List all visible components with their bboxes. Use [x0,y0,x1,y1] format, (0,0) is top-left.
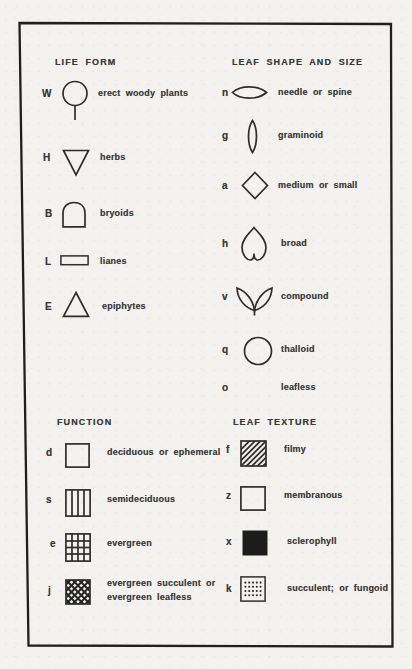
symbol-label: semideciduous [107,494,175,505]
inverted-heart-icon [240,226,268,263]
symbol-label: evergreen [107,538,152,549]
scanned-legend-page: LIFE FORM W erect woody plants H herbs B… [0,0,412,669]
inverted-triangle-icon [62,149,90,177]
vertical-stripes-square-icon [65,489,91,517]
symbol-letter: n [222,87,228,98]
rectangle-icon [60,255,89,266]
symbol-letter: e [50,538,56,549]
symbol-label: succulent; or fungoid [287,583,388,594]
symbol-letter: d [46,447,52,458]
section-title-life-form: LIFE FORM [55,57,116,68]
symbol-label: deciduous or ephemeral [107,447,220,458]
symbol-label: leafless [281,382,316,393]
symbol-letter: j [48,585,51,596]
symbol-letter: f [226,444,229,455]
symbol-letter: v [222,291,228,302]
symbol-label: graminoid [278,130,323,141]
symbol-label-line2: evergreen leafless [107,592,192,603]
horizontal-lens-icon [231,84,268,101]
vertical-lens-icon [246,119,259,154]
symbol-letter: E [45,301,52,312]
circle-icon [243,336,273,366]
section-title-function: FUNCTION [57,417,112,428]
symbol-letter: B [45,208,52,219]
symbol-label: membranous [284,490,343,501]
symbol-letter: a [222,180,228,191]
circle-with-stem-icon [61,80,89,121]
symbol-letter: h [222,238,228,249]
symbol-label: erect woody plants [98,88,188,99]
symbol-label: sclerophyll [287,536,337,547]
crosshatch-square-icon [65,579,91,605]
empty-square-icon [240,486,266,511]
empty-square-icon [65,443,90,468]
symbol-label: broad [281,238,307,249]
paired-leaflets-icon [233,283,276,316]
grid-square-icon [65,533,91,562]
symbol-letter: q [222,344,228,355]
symbol-letter: s [46,494,52,505]
dome-icon [61,201,87,228]
symbol-label: herbs [100,152,126,163]
symbol-label: thalloid [281,344,315,355]
section-title-leaf-shape: LEAF SHAPE AND SIZE [232,57,363,68]
symbol-label: lianes [100,256,127,267]
symbol-letter: W [42,88,51,99]
symbol-letter: g [222,130,228,141]
diamond-icon [241,171,269,200]
dot-grid [244,582,261,597]
symbol-label-line1: evergreen succulent or [107,578,215,589]
symbol-letter: L [45,256,51,267]
symbol-letter: x [226,536,232,547]
diagonal-hatch-square-icon [240,440,267,467]
section-title-leaf-texture: LEAF TEXTURE [233,417,317,428]
symbol-letter: o [222,382,228,393]
symbol-label: needle or spine [278,87,352,98]
symbol-letter: H [43,152,50,163]
symbol-letter: k [226,583,232,594]
triangle-icon [62,291,90,318]
symbol-label: epiphytes [102,301,146,312]
symbol-label: compound [281,291,329,302]
symbol-label: bryoids [100,208,134,219]
symbol-label: medium or small [278,180,358,191]
dotted-square-icon [240,576,266,602]
symbol-letter: z [226,490,231,501]
solid-black-square-icon [242,530,268,556]
symbol-label: filmy [284,444,306,455]
